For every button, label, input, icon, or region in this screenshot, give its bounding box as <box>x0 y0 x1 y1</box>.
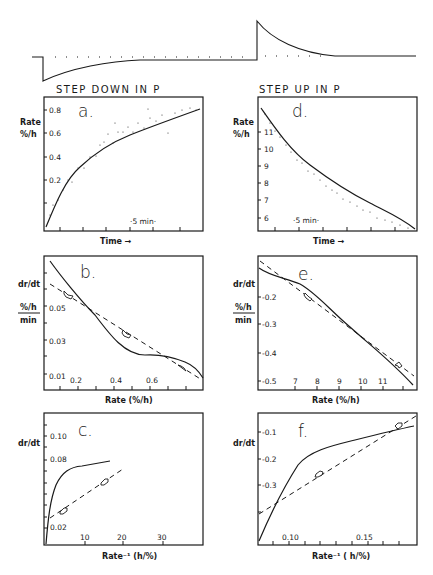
ytick: -0.3 <box>262 481 277 490</box>
x-axis-label: Time → <box>100 237 132 246</box>
ytick: -0.1 <box>262 428 277 437</box>
panel-c: 0.10 0.08 0.02 10 20 30 dr/dt c. Rate⁻¹ … <box>18 413 203 561</box>
xtick: 0.10 <box>282 533 299 542</box>
y-axis-unit-denominator: min <box>235 316 252 325</box>
ytick: 0.08 <box>50 455 67 464</box>
panel-letter: c. <box>78 420 93 440</box>
x-axis-label: Time → <box>313 237 345 246</box>
xtick: 11 <box>378 377 388 386</box>
panel-letter: f. <box>298 421 308 441</box>
ytick: 8 <box>264 179 269 188</box>
ytick: 0.8 <box>49 106 61 115</box>
arrow-markers <box>60 479 108 514</box>
xtick: 10 <box>358 377 368 386</box>
arrow-markers <box>64 291 186 371</box>
xtick: 20 <box>117 533 127 542</box>
xtick: 10 <box>80 533 90 542</box>
xtick: 0.4 <box>110 376 122 385</box>
y-axis-label: dr/dt <box>18 280 40 289</box>
xtick: 0.2 <box>70 376 82 385</box>
panel-letter: d. <box>292 101 308 121</box>
y-axis-unit: %/h <box>235 303 252 312</box>
title-right: STEP UP IN P <box>259 84 341 95</box>
ytick: 9 <box>264 162 269 171</box>
ytick: 0.4 <box>49 153 61 162</box>
y-axis-unit: %/h <box>20 130 37 139</box>
scale-annotation: ·5 min· <box>293 216 319 225</box>
panel-letter: b. <box>80 262 96 282</box>
figure: STEP DOWN IN P STEP UP IN P 0.8 0.6 0.4 … <box>0 0 433 575</box>
panel-e: -0.2 -0.3 -0.4 -0.5 7 8 9 10 11 dr/dt %/… <box>233 256 417 405</box>
xtick: 7 <box>293 377 298 386</box>
ytick: -0.3 <box>262 320 277 329</box>
ytick: 0.10 <box>50 432 67 441</box>
ytick: 10 <box>264 145 274 154</box>
y-axis-label: Rate <box>233 118 254 127</box>
x-axis-label: Rate⁻¹ (h/%) <box>102 552 157 561</box>
y-axis-unit: %/h <box>20 303 37 312</box>
ytick: 0.02 <box>50 523 67 532</box>
y-axis-label: dr/dt <box>233 439 255 448</box>
ytick: 6 <box>264 214 269 223</box>
xtick: 30 <box>157 533 167 542</box>
ytick: 0.2 <box>49 176 61 185</box>
ytick: -0.2 <box>262 293 277 302</box>
panel-f: -0.1 -0.2 -0.3 0.10 0.15 dr/dt f. Rate⁻¹… <box>233 413 417 561</box>
panel-a: 0.8 0.6 0.4 0.2 Rate %/h a. ·5 min· Time… <box>20 97 203 246</box>
panel-b: 0.05 0.03 0.01 0.2 0.4 0.6 dr/dt %/h min… <box>18 256 203 405</box>
x-axis-label: Rate (%/h) <box>105 396 153 405</box>
ytick: 0.05 <box>49 304 66 313</box>
x-axis-label: Rate (%/h) <box>312 396 360 405</box>
ytick: 11 <box>264 128 274 137</box>
scale-annotation: ·5 min· <box>130 217 156 226</box>
x-axis-label: Rate⁻¹ ( h/%) <box>312 552 370 561</box>
xtick: 8 <box>315 377 320 386</box>
data-points <box>49 107 196 215</box>
panel-d: 11 10 9 8 7 6 Rate %/h d. ·5 min· Time → <box>233 97 417 246</box>
y-axis-label: dr/dt <box>18 439 40 448</box>
ytick: -0.2 <box>262 455 277 464</box>
y-axis-unit: %/h <box>233 130 250 139</box>
ytick: -0.5 <box>262 377 277 386</box>
y-axis-label: Rate <box>20 118 41 127</box>
ytick: 7 <box>264 196 269 205</box>
xtick: 9 <box>337 377 342 386</box>
ytick: 0.03 <box>49 337 66 346</box>
title-left: STEP DOWN IN P <box>56 84 161 95</box>
ytick: -0.4 <box>262 349 277 358</box>
xtick: 0.15 <box>356 533 373 542</box>
ytick: 0.6 <box>49 129 61 138</box>
top-trace <box>32 21 416 81</box>
xtick: 0.6 <box>146 376 158 385</box>
y-axis-unit-denominator: min <box>20 316 37 325</box>
panel-letter: a. <box>78 101 94 121</box>
panel-letter: e. <box>298 264 314 284</box>
y-axis-label: dr/dt <box>233 280 255 289</box>
ytick: 0.01 <box>49 372 66 381</box>
